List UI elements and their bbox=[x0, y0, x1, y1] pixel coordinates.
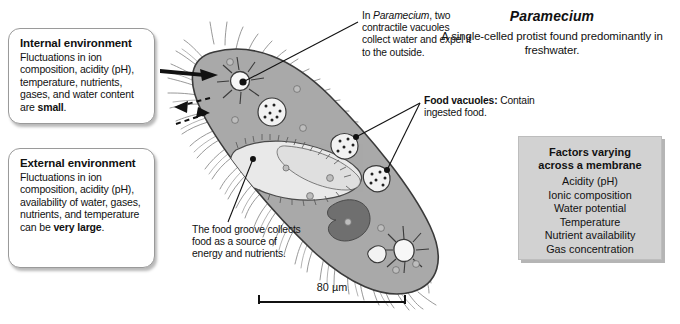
scale-bar: 80 µm bbox=[258, 281, 406, 304]
external-environment-body-post: . bbox=[102, 221, 105, 233]
external-environment-heading: External environment bbox=[20, 156, 145, 170]
internal-environment-body-post: . bbox=[64, 101, 67, 113]
figure-title-block: Paramecium A single-celled protist found… bbox=[432, 8, 672, 57]
internal-environment-emphasis: small bbox=[38, 101, 64, 113]
external-environment-callout: External environment Fluctuations in ion… bbox=[8, 148, 155, 268]
figure-title: Paramecium bbox=[432, 8, 672, 24]
scale-bar-rule bbox=[258, 295, 406, 304]
external-environment-body: Fluctuations in ion composition, acidity… bbox=[20, 171, 145, 233]
leader-food-vacuole-b bbox=[387, 103, 420, 170]
factors-varying-box: Factors varying across a membrane Acidit… bbox=[518, 136, 662, 260]
internal-environment-body: Fluctuations in ion composition, acidity… bbox=[20, 51, 145, 113]
contractile-vacuole-caption-pre: In bbox=[362, 10, 373, 21]
food-vacuoles-caption-label: Food vacuoles: bbox=[424, 95, 497, 106]
contractile-vacuole-caption-organism: Paramecium bbox=[373, 10, 429, 21]
factor-item: Temperature bbox=[523, 216, 657, 230]
leader-food-vacuole-a bbox=[356, 103, 420, 137]
external-environment-emphasis: very large bbox=[53, 221, 101, 233]
food-vacuole-1 bbox=[258, 98, 286, 126]
factor-item: Water potential bbox=[523, 202, 657, 216]
figure-canvas: Internal environment Fluctuations in ion… bbox=[0, 0, 680, 324]
figure-subtitle: A single-celled protist found predominan… bbox=[432, 29, 672, 57]
scale-bar-cap-left bbox=[258, 295, 260, 304]
factor-item: Nutrient availability bbox=[523, 229, 657, 243]
factor-item: Gas concentration bbox=[523, 243, 657, 257]
scale-bar-cap-right bbox=[404, 295, 406, 304]
factors-heading: Factors varying across a membrane bbox=[523, 146, 657, 172]
food-vacuoles-caption: Food vacuoles: Contain ingested food. bbox=[424, 95, 556, 119]
food-groove-caption: The food groove collects food as a sourc… bbox=[192, 224, 302, 261]
scale-bar-label: 80 µm bbox=[258, 281, 406, 293]
factor-item: Ionic composition bbox=[523, 189, 657, 203]
internal-environment-heading: Internal environment bbox=[20, 36, 145, 50]
internal-environment-callout: Internal environment Fluctuations in ion… bbox=[8, 28, 155, 124]
factor-item: Acidity (pH) bbox=[523, 175, 657, 189]
factors-heading-line2: across a membrane bbox=[523, 159, 657, 172]
factors-heading-line1: Factors varying bbox=[523, 146, 657, 159]
